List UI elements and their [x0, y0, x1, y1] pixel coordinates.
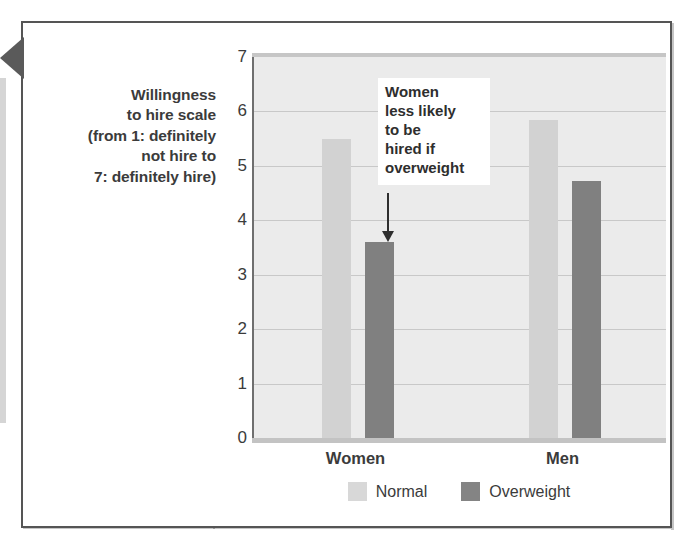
y-axis-tick-label: 4 — [219, 210, 247, 230]
gridline — [254, 329, 666, 330]
annotation-line-2: less likely — [385, 102, 484, 121]
annotation-line-5: overweight — [385, 159, 484, 178]
y-axis-caption-line-1: Willingness — [24, 85, 216, 105]
annotation-line-1: Women — [385, 83, 484, 102]
y-axis-tick-label: 6 — [219, 101, 247, 121]
y-axis-tick-label: 5 — [219, 156, 247, 176]
plot-baseline-rule — [252, 438, 666, 443]
page-edge-shadow — [0, 78, 6, 423]
legend-swatch-icon — [348, 482, 367, 501]
legend-label: Overweight — [489, 483, 570, 501]
bar-chart: 01234567 WomenMen Women less likely to b… — [219, 45, 669, 525]
legend-label: Normal — [376, 483, 428, 501]
y-axis-tick-label: 3 — [219, 265, 247, 285]
chart-legend: NormalOverweight — [252, 482, 666, 501]
bar-men-normal — [529, 120, 558, 438]
left-edge-triangle-icon — [0, 37, 24, 79]
annotation-line-4: hired if — [385, 140, 484, 159]
frame-bottom-margin — [23, 529, 671, 546]
bar-men-overweight — [572, 181, 601, 438]
gridline — [254, 384, 666, 385]
y-axis-tick-label: 1 — [219, 374, 247, 394]
frame-top-margin — [23, 0, 671, 21]
legend-item-normal: Normal — [348, 482, 428, 501]
figure-page: Willingness to hire scale (from 1: defin… — [0, 0, 697, 546]
y-axis-tick-label: 0 — [219, 428, 247, 448]
gridline — [254, 275, 666, 276]
x-axis-tick-label: Men — [546, 449, 579, 468]
y-axis-tick-label: 7 — [219, 47, 247, 67]
y-axis-caption: Willingness to hire scale (from 1: defin… — [24, 85, 216, 187]
y-axis-tick-label: 2 — [219, 319, 247, 339]
y-axis-caption-line-5: 7: definitely hire) — [24, 167, 216, 187]
annotation-line-3: to be — [385, 121, 484, 140]
legend-swatch-icon — [461, 482, 480, 501]
gridline — [254, 220, 666, 221]
legend-item-overweight: Overweight — [461, 482, 570, 501]
annotation-callout: Women less likely to be hired if overwei… — [378, 78, 490, 185]
y-axis-caption-line-4: not hire to — [24, 146, 216, 166]
y-axis-caption-line-3: (from 1: definitely — [24, 126, 216, 146]
bar-women-overweight — [365, 242, 394, 438]
x-axis-tick-label: Women — [326, 449, 385, 468]
annotation-arrow-icon — [387, 193, 389, 233]
bar-women-normal — [322, 139, 351, 438]
y-axis-caption-line-2: to hire scale — [24, 105, 216, 125]
